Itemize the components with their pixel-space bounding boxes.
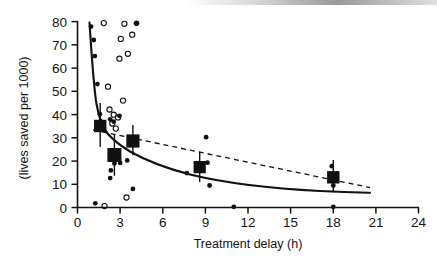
data-point-filled bbox=[185, 171, 190, 176]
chart-svg: 80 70 60 50 40 30 20 10 0 0 3 6 9 bbox=[0, 0, 437, 260]
data-point-filled bbox=[331, 204, 336, 209]
x-tick-labels-group: 0 3 6 9 12 15 18 21 24 bbox=[74, 215, 427, 230]
y-tick-label-30: 30 bbox=[52, 131, 67, 146]
data-point-open bbox=[105, 84, 110, 89]
data-point-filled bbox=[108, 176, 113, 181]
y-tick-label-20: 20 bbox=[52, 154, 67, 169]
y-tick-label-80: 80 bbox=[52, 15, 67, 30]
data-point-filled bbox=[134, 21, 140, 27]
x-tick-label-0: 0 bbox=[74, 215, 82, 230]
data-point-filled bbox=[92, 54, 97, 59]
x-tick-label-12: 12 bbox=[240, 215, 255, 230]
data-point-filled bbox=[91, 38, 96, 43]
y-tick-label-70: 70 bbox=[52, 38, 67, 53]
x-axis-label: Treatment delay (h) bbox=[194, 237, 303, 251]
y-tick-label-40: 40 bbox=[52, 108, 67, 123]
y-tick-label-0: 0 bbox=[59, 201, 67, 216]
x-tick-label-21: 21 bbox=[368, 215, 383, 230]
data-point-filled bbox=[204, 135, 209, 140]
data-point-open bbox=[113, 126, 118, 131]
data-point-open bbox=[130, 32, 135, 37]
y-tick-label-60: 60 bbox=[52, 61, 67, 76]
data-point-filled bbox=[111, 119, 116, 124]
data-point-filled bbox=[109, 168, 114, 173]
data-point-open bbox=[125, 51, 130, 56]
x-tick-label-15: 15 bbox=[283, 215, 298, 230]
data-point-open bbox=[122, 21, 127, 26]
data-point-filled bbox=[231, 204, 236, 209]
exponential-fit-curve bbox=[90, 23, 371, 193]
y-tick-labels-group: 80 70 60 50 40 30 20 10 0 bbox=[52, 15, 67, 216]
x-tick-label-24: 24 bbox=[411, 215, 427, 230]
data-point-filled bbox=[131, 187, 136, 192]
data-point-open bbox=[101, 21, 106, 26]
data-point-filled bbox=[95, 82, 100, 87]
data-point-filled bbox=[89, 24, 94, 29]
data-point-open bbox=[124, 195, 129, 200]
fit-curves-group bbox=[90, 23, 371, 193]
data-point-filled bbox=[125, 158, 130, 163]
data-point-open bbox=[118, 36, 123, 41]
pooled-square bbox=[327, 171, 339, 183]
y-tick-label-50: 50 bbox=[52, 84, 67, 99]
data-point-open bbox=[107, 107, 112, 112]
pooled-square bbox=[94, 120, 106, 132]
x-ticks-group bbox=[78, 208, 419, 214]
filled-circle-points-group bbox=[89, 21, 336, 210]
pooled-square bbox=[194, 161, 206, 173]
data-point-filled bbox=[93, 201, 98, 206]
axes-group bbox=[77, 21, 419, 208]
pooled-estimates-group bbox=[94, 103, 340, 192]
x-tick-label-9: 9 bbox=[202, 215, 210, 230]
data-point-open bbox=[120, 98, 125, 103]
x-tick-label-6: 6 bbox=[159, 215, 167, 230]
data-point-open bbox=[111, 112, 116, 117]
data-point-filled bbox=[207, 183, 212, 188]
figure-panel: 80 70 60 50 40 30 20 10 0 0 3 6 9 bbox=[0, 0, 437, 260]
pooled-square bbox=[126, 134, 139, 147]
pooled-square bbox=[107, 148, 121, 162]
data-point-filled bbox=[205, 160, 210, 165]
y-axis-label-line2: (lives saved per 1000) bbox=[17, 57, 31, 180]
data-point-open bbox=[117, 56, 122, 61]
y-ticks-group bbox=[72, 22, 78, 208]
x-tick-label-3: 3 bbox=[116, 215, 124, 230]
x-tick-label-18: 18 bbox=[326, 215, 341, 230]
data-point-filled bbox=[117, 113, 122, 118]
y-tick-label-10: 10 bbox=[52, 177, 67, 192]
